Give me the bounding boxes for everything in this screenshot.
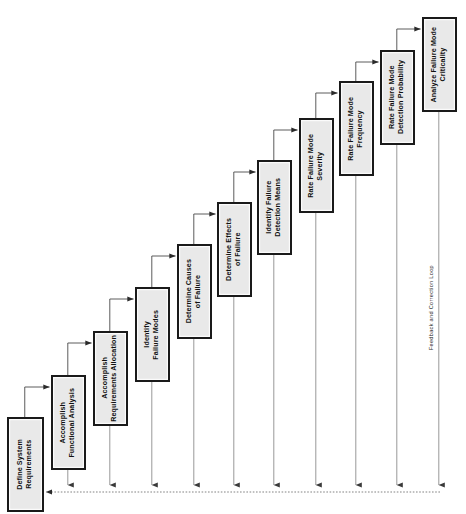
step-connector-5 xyxy=(194,214,216,244)
process-node-label: Accomplish Functional Analysis xyxy=(59,388,77,458)
process-node-6: Determine Effects of Failure xyxy=(217,202,252,297)
process-node-7: Identify Failure Detection Means xyxy=(257,160,292,255)
process-node-1: Define System Requirements xyxy=(7,417,44,512)
feedback-loop-caption: Feedback and Correction Loop xyxy=(428,265,434,350)
step-connector-8 xyxy=(316,93,338,118)
process-node-label: Accomplish Requirements Allocation xyxy=(101,335,119,422)
process-node-8: Rate Failure Mode Severity xyxy=(299,118,334,213)
process-node-label: Identify Failure Modes xyxy=(143,310,161,360)
process-node-2: Accomplish Functional Analysis xyxy=(51,375,86,470)
process-node-label: Define System Requirements xyxy=(16,439,34,490)
process-node-10: Rate Failure Mode Detection Probability xyxy=(380,50,415,145)
feedback-drop-lines xyxy=(68,112,439,485)
step-connector-6 xyxy=(234,172,256,202)
process-node-3: Accomplish Requirements Allocation xyxy=(93,331,128,426)
step-connector-3 xyxy=(110,299,134,331)
fmeca-process-flow-diagram: Define System RequirementsAccomplish Fun… xyxy=(0,0,466,514)
process-node-label: Identify Failure Detection Means xyxy=(265,178,283,237)
process-node-label: Rate Failure Mode Detection Probability xyxy=(388,60,406,134)
process-node-11: Analyze Failure Mode Criticality xyxy=(422,17,457,112)
step-connector-2 xyxy=(68,343,92,375)
step-connector-4 xyxy=(152,256,176,287)
process-node-label: Rate Failure Mode Frequency xyxy=(347,97,365,161)
process-node-9: Rate Failure Mode Frequency xyxy=(339,81,374,176)
process-node-label: Analyze Failure Mode Criticality xyxy=(430,27,448,103)
step-connector-10 xyxy=(397,29,421,50)
process-node-4: Identify Failure Modes xyxy=(135,287,170,382)
process-node-label: Determine Causes of Failure xyxy=(185,259,203,323)
process-node-5: Determine Causes of Failure xyxy=(177,244,212,339)
step-connector-7 xyxy=(274,130,298,160)
step-connector-1 xyxy=(25,387,50,417)
step-connector-9 xyxy=(356,62,379,81)
process-node-label: Determine Effects of Failure xyxy=(225,218,243,281)
process-node-label: Rate Failure Mode Severity xyxy=(307,134,325,198)
